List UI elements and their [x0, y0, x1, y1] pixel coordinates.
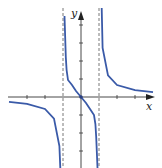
x-axis-label: x	[146, 100, 153, 113]
curve-left-branch	[9, 102, 60, 168]
origin-point	[79, 95, 83, 99]
y-axis-label: y	[70, 7, 78, 20]
y-axis	[78, 11, 84, 168]
function-plot: y x	[0, 0, 162, 168]
curve-right-branch	[102, 8, 153, 92]
